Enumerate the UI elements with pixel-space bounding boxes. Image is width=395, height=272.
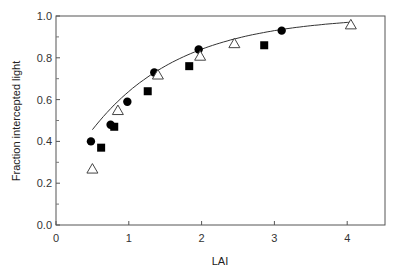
circle-marker — [87, 137, 95, 145]
y-tick-label: 0.6 — [37, 94, 52, 106]
y-tick-label: 0.0 — [37, 219, 52, 231]
plot-frame — [56, 16, 385, 225]
triangle-marker — [87, 164, 98, 174]
x-axis: 01234 — [53, 221, 350, 244]
y-tick-label: 0.2 — [37, 177, 52, 189]
scatter-chart: 0.00.20.40.60.81.0 01234 Fraction interc… — [0, 0, 395, 272]
square-marker — [260, 41, 268, 49]
square-marker — [97, 144, 105, 152]
x-tick-label: 4 — [344, 232, 350, 244]
x-tick-label: 0 — [53, 232, 59, 244]
square-marker — [110, 123, 118, 131]
square-marker — [144, 87, 152, 95]
y-tick-label: 0.8 — [37, 52, 52, 64]
y-axis: 0.00.20.40.60.81.0 — [37, 10, 60, 231]
circle-marker — [123, 97, 131, 105]
data-series — [87, 19, 357, 173]
x-tick-label: 2 — [199, 232, 205, 244]
fit-curve — [92, 22, 350, 130]
x-tick-label: 3 — [271, 232, 277, 244]
square-marker — [185, 62, 193, 70]
y-tick-label: 1.0 — [37, 10, 52, 22]
triangle-marker — [112, 105, 123, 115]
x-tick-label: 1 — [126, 232, 132, 244]
y-tick-label: 0.4 — [37, 135, 52, 147]
circle-marker — [277, 26, 285, 34]
triangle-marker — [345, 19, 356, 29]
x-axis-title: LAI — [212, 255, 229, 267]
y-axis-title: Fraction intercepted light — [10, 61, 22, 181]
